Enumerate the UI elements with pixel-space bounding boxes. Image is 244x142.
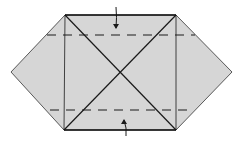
origami-diagram: [0, 0, 244, 142]
paper-hexagon: [11, 15, 232, 130]
